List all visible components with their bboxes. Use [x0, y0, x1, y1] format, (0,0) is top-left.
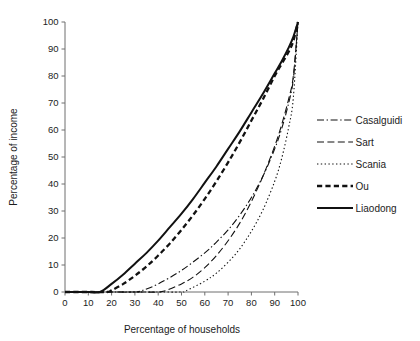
- y-axis-ticks: [62, 22, 66, 292]
- y-tick-label: 90: [48, 43, 59, 54]
- x-tick-label: 30: [130, 297, 141, 308]
- x-tick-label: 10: [83, 297, 94, 308]
- x-axis-tick-labels: 0102030405060708090100: [62, 297, 306, 308]
- legend-item-scania: Scania: [317, 159, 387, 170]
- x-tick-label: 0: [62, 297, 67, 308]
- x-tick-label: 100: [290, 297, 306, 308]
- y-tick-label: 50: [48, 151, 59, 162]
- data-series: [65, 22, 298, 293]
- y-tick-label: 80: [48, 70, 59, 81]
- y-tick-label: 40: [48, 178, 59, 189]
- series-line-liaodong: [65, 22, 298, 293]
- y-tick-label: 60: [48, 124, 59, 135]
- x-tick-label: 20: [106, 297, 117, 308]
- x-tick-label: 40: [153, 297, 164, 308]
- legend-item-ou: Ou: [317, 181, 369, 192]
- x-tick-label: 50: [176, 297, 187, 308]
- y-tick-label: 10: [48, 259, 59, 270]
- series-line-scania: [65, 22, 298, 292]
- legend-item-casalguidi: Casalguidi: [317, 115, 402, 126]
- legend-label-casalguidi: Casalguidi: [356, 115, 403, 126]
- y-tick-label: 100: [43, 16, 59, 27]
- y-tick-label: 30: [48, 205, 59, 216]
- series-line-casalguidi: [65, 22, 298, 292]
- y-tick-label: 70: [48, 97, 59, 108]
- y-tick-label: 20: [48, 232, 59, 243]
- y-axis-title: Percentage of income: [8, 108, 19, 206]
- legend-item-liaodong: Liaodong: [317, 203, 397, 214]
- lorenz-curve-chart: 0102030405060708090100 01020304050607080…: [0, 0, 420, 341]
- legend-label-liaodong: Liaodong: [356, 203, 397, 214]
- x-tick-label: 70: [223, 297, 234, 308]
- legend: CasalguidiSartScaniaOuLiaodong: [317, 115, 402, 214]
- legend-label-sart: Sart: [356, 137, 375, 148]
- x-tick-label: 90: [269, 297, 280, 308]
- x-tick-label: 80: [246, 297, 257, 308]
- legend-label-ou: Ou: [356, 181, 369, 192]
- legend-item-sart: Sart: [317, 137, 374, 148]
- series-line-sart: [65, 22, 298, 292]
- x-axis-title: Percentage of households: [124, 324, 240, 335]
- x-tick-label: 60: [200, 297, 211, 308]
- series-line-ou: [65, 22, 298, 292]
- axes: [62, 22, 299, 296]
- y-axis-tick-labels: 0102030405060708090100: [43, 16, 59, 297]
- y-tick-label: 0: [53, 286, 58, 297]
- chart-canvas: 0102030405060708090100 01020304050607080…: [0, 0, 420, 341]
- legend-label-scania: Scania: [356, 159, 387, 170]
